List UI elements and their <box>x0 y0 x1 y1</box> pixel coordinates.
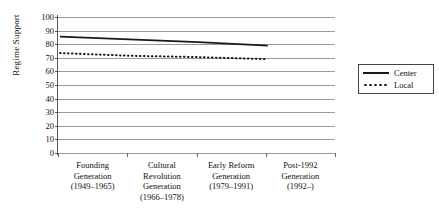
legend-swatch-dotted <box>363 81 389 89</box>
y-tick-label: 30 <box>46 107 55 117</box>
x-tick-label-line: (1992–) <box>257 181 343 192</box>
y-tick-label: 100 <box>41 12 54 22</box>
y-tick-label: 20 <box>46 121 55 131</box>
legend-label-local: Local <box>394 80 413 90</box>
y-tick-label: 60 <box>46 66 55 76</box>
legend-item-center: Center <box>363 67 417 79</box>
legend-swatch-solid <box>363 69 389 77</box>
plot-area: 1009080706050403020100 <box>58 17 335 153</box>
x-tick-mark <box>127 153 128 157</box>
y-tick-label: 80 <box>46 39 55 49</box>
x-tick-label-line: Generation <box>257 171 343 182</box>
x-tick-mark <box>197 153 198 157</box>
y-tick-label: 90 <box>46 26 55 36</box>
legend: Center Local <box>358 64 434 94</box>
y-tick-label: 0 <box>50 148 54 158</box>
series-line <box>60 37 268 46</box>
legend-label-center: Center <box>394 68 417 78</box>
x-tick-mark <box>266 153 267 157</box>
x-axis-labels: FoundingGeneration(1949–1965)CulturalRev… <box>0 160 439 209</box>
y-tick-label: 10 <box>46 134 55 144</box>
x-tick-label: Post-1992Generation(1992–) <box>257 160 343 192</box>
series-line <box>60 53 268 59</box>
y-tick-label: 70 <box>46 53 55 63</box>
x-tick-label-line: (1966–1978) <box>119 192 205 203</box>
x-tick-mark <box>58 153 59 157</box>
y-tick-label: 40 <box>46 94 55 104</box>
x-tick-mark <box>335 153 336 157</box>
chart-figure: Regime Support 1009080706050403020100 Fo… <box>0 0 439 209</box>
data-series-lines <box>58 17 335 153</box>
y-tick-label: 50 <box>46 80 55 90</box>
legend-item-local: Local <box>363 79 413 91</box>
y-axis-title: Regime Support <box>11 0 21 105</box>
x-tick-label-line: Post-1992 <box>257 160 343 171</box>
